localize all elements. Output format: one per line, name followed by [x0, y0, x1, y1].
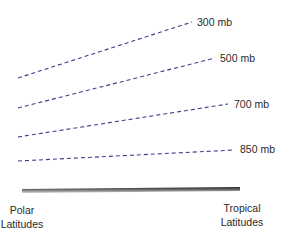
ground-surface: [22, 187, 240, 193]
pressure-line-850mb: [18, 150, 234, 161]
tropical-latitudes-label: Tropical Latitudes: [217, 201, 267, 229]
pressure-label-300mb: 300 mb: [197, 17, 232, 28]
polar-latitudes-label: Polar Latitudes: [0, 203, 44, 231]
pressure-label-500mb: 500 mb: [220, 53, 255, 64]
pressure-label-850mb: 850 mb: [240, 144, 275, 155]
pressure-line-700mb: [18, 104, 228, 137]
pressure-line-300mb: [18, 22, 192, 78]
pressure-label-700mb: 700 mb: [234, 99, 269, 110]
pressure-line-500mb: [18, 58, 215, 108]
